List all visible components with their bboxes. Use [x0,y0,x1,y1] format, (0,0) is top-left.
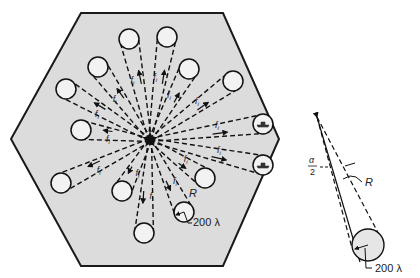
target-circle [88,57,108,77]
target-circle [112,181,132,201]
target-circle [223,71,243,91]
target-circle [195,168,215,188]
phased-array-beam-diagram: fifififififififififififififi R 200 λ α 2… [0,0,420,278]
alpha-label: α [309,155,315,165]
spot-size-label: 200 λ [193,216,220,228]
detail-view: α 2 R 200 λ [308,117,402,274]
range-label: R [189,187,197,199]
target-circle [56,79,76,99]
target-circle [179,59,199,79]
detail-spot-size-label: 200 λ [375,262,402,274]
target-circle [134,223,154,243]
beam-arrow [143,191,144,203]
detail-range-label: R [365,176,373,188]
target-circle [51,173,71,193]
half-label: 2 [310,167,315,177]
target-circle [157,27,177,47]
target-circle [71,120,91,140]
target-circle [119,29,139,49]
